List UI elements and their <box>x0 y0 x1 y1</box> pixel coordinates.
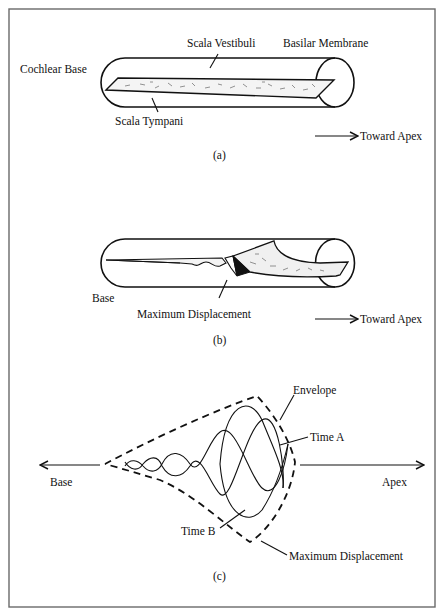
label-time-b: Time B <box>181 525 216 537</box>
caption-a: (a) <box>213 149 226 162</box>
cochlea-figure: Cochlear Base Scala Vestibuli Basilar Me… <box>0 0 442 613</box>
label-toward-apex-b: Toward Apex <box>360 313 422 326</box>
label-base-b: Base <box>92 292 114 304</box>
label-basilar-membrane: Basilar Membrane <box>283 37 368 49</box>
label-maximum-displacement-c: Maximum Displacement <box>289 550 404 563</box>
label-scala-tympani: Scala Tympani <box>115 115 183 128</box>
label-time-a: Time A <box>310 431 345 443</box>
label-toward-apex-a: Toward Apex <box>360 130 422 143</box>
label-apex-c: Apex <box>382 476 407 489</box>
caption-c: (c) <box>213 570 226 583</box>
label-maximum-displacement-b: Maximum Displacement <box>137 308 252 321</box>
label-scala-vestibuli: Scala Vestibuli <box>187 37 255 49</box>
label-base-c: Base <box>50 476 72 488</box>
caption-b: (b) <box>213 334 227 347</box>
label-envelope: Envelope <box>293 384 336 397</box>
label-cochlear-base: Cochlear Base <box>20 63 87 75</box>
